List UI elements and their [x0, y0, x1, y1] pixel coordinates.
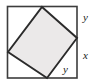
label-x-right: x [83, 50, 88, 61]
label-y-bottom: y [63, 64, 68, 75]
label-y-top-right: y [83, 12, 88, 23]
geometry-figure: y x y [0, 0, 101, 84]
